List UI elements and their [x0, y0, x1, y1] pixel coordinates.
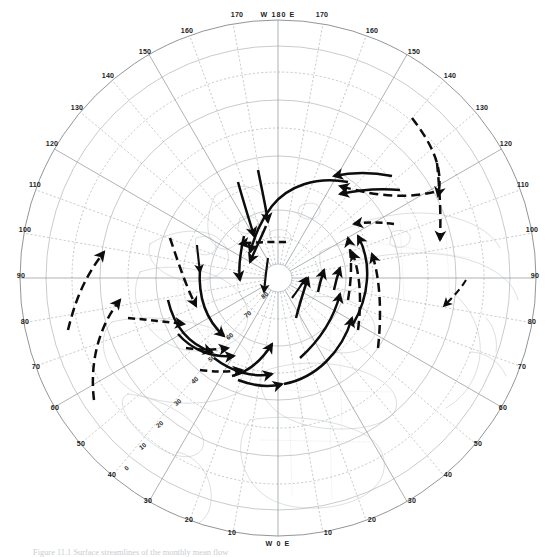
streamline-arrow-outer-left-lower	[93, 300, 120, 400]
longitude-label: 120	[500, 140, 512, 148]
meridian-line	[233, 292, 275, 532]
longitude-label: 160	[181, 27, 193, 35]
figure-caption: Figure 11.1 Surface streamlines of the m…	[33, 548, 228, 557]
streamline-arrow-nnw	[238, 182, 254, 236]
longitude-label: 120	[46, 140, 58, 148]
longitude-label: 150	[408, 48, 420, 56]
longitude-label: 140	[102, 72, 114, 80]
meridian-line	[290, 149, 501, 271]
longitude-label: 170	[231, 11, 243, 19]
meridian-line	[285, 290, 407, 501]
meridian-lines	[20, 20, 536, 536]
streamline-arrow-nw-descend	[258, 170, 268, 222]
latitude-label: 20	[155, 419, 165, 429]
longitude-label: 160	[366, 27, 378, 35]
meridian-line	[280, 24, 322, 264]
latitude-label: 30	[173, 397, 183, 407]
streamline-arrows	[68, 118, 466, 400]
meridian-line	[290, 285, 501, 407]
latitude-label: 0	[123, 464, 130, 472]
meridian-line	[80, 287, 267, 444]
longitude-label: 100	[526, 226, 538, 234]
streamline-arrow-east-far-up	[372, 254, 380, 348]
meridian-line	[287, 289, 444, 476]
longitude-label: 80	[21, 318, 29, 326]
meridian-line	[55, 285, 266, 407]
meridian-line	[285, 55, 407, 266]
meridian-line	[292, 280, 532, 322]
longitude-label: 30	[408, 497, 416, 505]
meridian-line	[190, 291, 273, 520]
streamline-arrow-top-west-1	[334, 173, 392, 176]
longitude-label: 150	[139, 48, 151, 56]
longitude-label: 170	[316, 11, 328, 19]
longitude-label: 90	[17, 272, 25, 280]
longitude-label: 20	[368, 516, 376, 524]
longitude-label: 70	[518, 363, 526, 371]
longitude-label: 50	[77, 440, 85, 448]
longitude-label: 10	[228, 529, 236, 537]
meridian-line	[190, 36, 273, 265]
streamline-arrow-left-short-down	[197, 245, 200, 272]
meridian-line	[283, 36, 366, 265]
latitude-label: 60	[225, 331, 235, 341]
longitude-label: 60	[499, 404, 507, 412]
graticule	[20, 20, 536, 536]
longitude-label: 110	[517, 181, 529, 189]
latitude-label: 10	[138, 441, 148, 451]
longitude-label: 30	[144, 497, 152, 505]
meridian-line	[283, 291, 366, 520]
meridian-line	[55, 149, 266, 271]
longitude-label: 130	[476, 104, 488, 112]
longitude-label: 70	[32, 363, 40, 371]
meridian-line	[36, 190, 265, 273]
streamline-arrow-outer-right-upper	[412, 118, 440, 196]
political-borders	[140, 222, 470, 500]
streamline-arrow-left-spiral	[170, 238, 196, 306]
longitude-label: 50	[474, 440, 482, 448]
longitude-label: 60	[51, 404, 59, 412]
longitude-label: 20	[185, 516, 193, 524]
meridian-line	[292, 233, 532, 275]
streamline-arrow-lower-centre-e	[238, 380, 282, 386]
streamline-arrow-east-big-arc	[284, 318, 352, 384]
longitude-label: 130	[71, 104, 83, 112]
streamline-arrow-bottom-se	[214, 358, 272, 375]
meridian-line	[280, 292, 322, 532]
meridian-line	[291, 283, 520, 366]
latitude-label: 70	[243, 309, 253, 319]
latitude-label: 80	[260, 290, 270, 300]
longitude-label: 80	[528, 318, 536, 326]
streamline-arrow-outer-left-upper	[68, 252, 104, 330]
latitude-label: 40	[190, 375, 200, 385]
longitude-label: 110	[29, 181, 41, 189]
meridian-line	[289, 287, 476, 444]
longitude-label: 40	[108, 471, 116, 479]
meridian-line	[24, 280, 264, 322]
longitude-label: 100	[19, 226, 31, 234]
streamline-arrow-east-up-2	[334, 268, 340, 290]
longitude-label: 40	[444, 471, 452, 479]
latitude-labels: 80706050403020100	[123, 290, 270, 472]
meridian-line	[289, 112, 476, 269]
longitude-label: 90	[531, 272, 539, 280]
longitude-label: 10	[324, 529, 332, 537]
meridian-line	[112, 80, 269, 267]
meridian-line	[233, 24, 275, 264]
label-top-meridian: W 180 E	[261, 11, 296, 19]
label-bottom-meridian: W 0 E	[266, 540, 291, 548]
longitude-label: 140	[444, 72, 456, 80]
